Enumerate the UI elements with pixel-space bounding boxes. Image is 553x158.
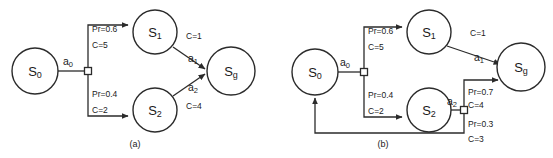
- action-label-a2: a2: [188, 81, 198, 95]
- panel-a-action-labels: a0 a1 a2: [63, 52, 198, 95]
- action-label-a0: a0: [340, 56, 350, 70]
- edge-label-goal-branch-prob: Pr=0.7: [468, 87, 494, 97]
- edge-label-s2-goal-cost: C=4: [186, 101, 202, 111]
- figure-root: S0 S1 S2 Sg a0: [0, 0, 553, 158]
- panel-b-nodes: S0 S1 S2 Sg: [292, 10, 545, 132]
- panel-a-edges: [58, 25, 205, 116]
- caption-panel-a: (a): [130, 139, 141, 149]
- edge-label-branch-up-cost: C=5: [368, 42, 384, 52]
- edge-label-loop-branch-prob: Pr=0.3: [468, 119, 494, 129]
- edge-label-branch-down-cost: C=2: [368, 106, 384, 116]
- junction-a0: [361, 69, 368, 76]
- action-label-a1: a1: [188, 52, 198, 66]
- edge-label-s1-goal-cost: C=1: [470, 28, 486, 38]
- panel-a-nodes: S0 S1 S2 Sg: [12, 10, 255, 132]
- action-label-a1: a1: [474, 51, 484, 65]
- edge-label-branch-down-prob: Pr=0.4: [368, 90, 394, 100]
- edge-label-branch-up-prob: Pr=0.6: [368, 26, 394, 36]
- panel-b: S0 S1 S2 Sg a0: [292, 10, 545, 149]
- caption-panel-b: (b): [378, 139, 389, 149]
- action-label-a0: a0: [63, 55, 73, 69]
- edge-label-goal-branch-cost: C=4: [468, 100, 484, 110]
- edge-label-s1-goal-cost: C=1: [186, 31, 202, 41]
- edge-label-branch-down-prob: Pr=0.4: [92, 89, 118, 99]
- edge-label-branch-up-cost: C=5: [92, 40, 108, 50]
- action-label-a2: a2: [447, 95, 457, 109]
- mdp-diagram-figure: S0 S1 S2 Sg a0: [0, 0, 553, 158]
- edge-label-branch-up-prob: Pr=0.6: [92, 24, 118, 34]
- junction-a2: [461, 107, 468, 114]
- edge-label-branch-down-cost: C=2: [92, 105, 108, 115]
- junction-a0: [85, 68, 92, 75]
- panel-a: S0 S1 S2 Sg a0: [12, 10, 255, 149]
- edge-label-loop-branch-cost: C=3: [468, 134, 484, 144]
